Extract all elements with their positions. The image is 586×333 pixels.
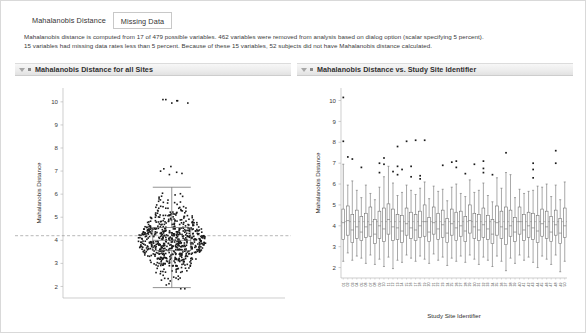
description-text: Mahalanobis distance is computed from 17…	[24, 32, 571, 51]
svg-text:9: 9	[55, 121, 59, 128]
svg-text:01: 01	[342, 283, 346, 287]
svg-text:44: 44	[536, 283, 540, 287]
svg-text:8: 8	[333, 138, 337, 145]
svg-text:21: 21	[432, 283, 436, 287]
tab-mahalanobis-distance[interactable]: Mahalanobis Distance	[25, 12, 113, 29]
chart-mahalanobis-all-sites: 2345678910Mahalanobis Distance	[15, 78, 291, 324]
svg-text:48: 48	[554, 283, 558, 287]
description-line-1: Mahalanobis distance is computed from 17…	[24, 32, 571, 41]
svg-text:02: 02	[346, 283, 350, 287]
panel-header-right[interactable]: Mahalanobis Distance vs. Study Site Iden…	[297, 63, 573, 76]
svg-text:49: 49	[559, 283, 563, 287]
svg-text:43: 43	[531, 283, 535, 287]
bullet-icon	[28, 68, 31, 71]
svg-text:10: 10	[329, 97, 336, 104]
svg-text:23: 23	[441, 283, 445, 287]
panel-title-right: Mahalanobis Distance vs. Study Site Iden…	[317, 65, 476, 74]
svg-text:13: 13	[396, 283, 400, 287]
svg-text:29: 29	[468, 283, 472, 287]
svg-text:46: 46	[545, 283, 549, 287]
svg-text:33: 33	[486, 283, 490, 287]
svg-text:9: 9	[333, 118, 337, 125]
svg-text:04: 04	[355, 283, 359, 287]
svg-text:05: 05	[360, 283, 364, 287]
svg-text:Mahalanobis Distance: Mahalanobis Distance	[35, 162, 42, 223]
svg-text:27: 27	[459, 283, 463, 287]
svg-text:47: 47	[549, 283, 553, 287]
svg-text:10: 10	[51, 98, 58, 105]
svg-text:03: 03	[351, 283, 355, 287]
svg-text:42: 42	[527, 283, 531, 287]
svg-text:31: 31	[477, 283, 481, 287]
svg-text:7: 7	[55, 167, 59, 174]
tab-label: Missing Data	[121, 17, 164, 26]
svg-text:24: 24	[446, 283, 450, 287]
svg-text:16: 16	[409, 283, 413, 287]
svg-text:45: 45	[540, 283, 544, 287]
boxplot-svg: 2345678910Mahalanobis Distance0102030405…	[297, 78, 573, 324]
svg-text:12: 12	[391, 283, 395, 287]
svg-text:Study Site Identifier: Study Site Identifier	[427, 312, 481, 319]
svg-text:5: 5	[333, 201, 337, 208]
svg-text:3: 3	[333, 243, 337, 250]
svg-text:36: 36	[500, 283, 504, 287]
description-line-2: 15 variables had missing data rates less…	[24, 41, 571, 50]
svg-text:6: 6	[333, 180, 337, 187]
svg-text:34: 34	[491, 283, 495, 287]
tab-bar: Mahalanobis Distance Missing Data	[25, 12, 172, 29]
svg-text:17: 17	[414, 283, 418, 287]
svg-text:5: 5	[55, 213, 59, 220]
svg-text:19: 19	[423, 283, 427, 287]
svg-text:Mahalanobis Distance: Mahalanobis Distance	[314, 152, 321, 213]
svg-text:10: 10	[382, 283, 386, 287]
svg-text:15: 15	[405, 283, 409, 287]
svg-text:32: 32	[482, 283, 486, 287]
svg-text:26: 26	[455, 283, 459, 287]
svg-text:22: 22	[436, 283, 440, 287]
svg-text:50: 50	[563, 283, 567, 287]
svg-text:14: 14	[400, 283, 404, 287]
svg-text:09: 09	[378, 283, 382, 287]
application-window: Mahalanobis Distance Missing Data Mahala…	[0, 0, 586, 333]
svg-text:20: 20	[427, 283, 431, 287]
svg-text:08: 08	[373, 283, 377, 287]
svg-text:41: 41	[522, 283, 526, 287]
svg-text:40: 40	[518, 283, 522, 287]
svg-text:25: 25	[450, 283, 454, 287]
svg-text:28: 28	[464, 283, 468, 287]
svg-text:37: 37	[504, 283, 508, 287]
tab-label: Mahalanobis Distance	[32, 16, 106, 25]
chart-mahalanobis-by-site: 2345678910Mahalanobis Distance0102030405…	[297, 78, 573, 324]
collapse-triangle-icon[interactable]	[301, 68, 307, 72]
svg-text:35: 35	[495, 283, 499, 287]
svg-text:4: 4	[333, 222, 337, 229]
collapse-triangle-icon[interactable]	[19, 68, 25, 72]
svg-text:07: 07	[369, 283, 373, 287]
svg-text:3: 3	[55, 259, 59, 266]
svg-text:38: 38	[509, 283, 513, 287]
svg-text:2: 2	[333, 264, 337, 271]
panel-title-left: Mahalanobis Distance for all Sites	[35, 65, 153, 74]
svg-text:11: 11	[387, 283, 391, 287]
svg-text:7: 7	[333, 159, 337, 166]
svg-text:06: 06	[364, 283, 368, 287]
svg-text:2: 2	[55, 283, 59, 290]
svg-text:4: 4	[55, 236, 59, 243]
svg-text:18: 18	[418, 283, 422, 287]
svg-text:30: 30	[473, 283, 477, 287]
bullet-icon	[310, 68, 313, 71]
svg-text:8: 8	[55, 144, 59, 151]
svg-text:6: 6	[55, 190, 59, 197]
panel-header-left[interactable]: Mahalanobis Distance for all Sites	[15, 63, 291, 76]
tab-missing-data[interactable]: Missing Data	[113, 12, 172, 29]
scatter-plot-svg: 2345678910Mahalanobis Distance	[15, 78, 291, 324]
svg-text:39: 39	[513, 283, 517, 287]
